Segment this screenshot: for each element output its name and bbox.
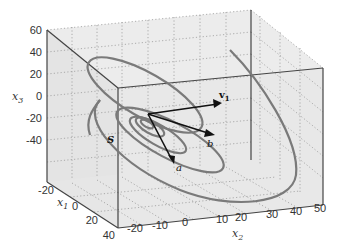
svg-text:40: 40 [30, 46, 42, 58]
label-S: S [107, 134, 114, 145]
svg-text:20: 20 [30, 68, 42, 80]
svg-text:60: 60 [30, 24, 42, 36]
svg-text:-20: -20 [127, 222, 143, 234]
svg-text:0: 0 [182, 216, 188, 228]
svg-text:0: 0 [72, 200, 78, 212]
label-b: b [207, 138, 213, 149]
x1-axis-label: x1 [57, 196, 68, 211]
svg-text:-20: -20 [38, 184, 54, 196]
svg-text:20: 20 [235, 211, 247, 223]
svg-text:20: 20 [86, 214, 98, 226]
svg-text:50: 50 [314, 202, 326, 214]
x3-axis-label: x3 [12, 90, 23, 105]
svg-text:30: 30 [266, 208, 278, 220]
svg-text:-40: -40 [26, 134, 42, 146]
svg-text:10: 10 [216, 213, 228, 225]
svg-text:0: 0 [36, 90, 42, 102]
3d-plot: v1 b a S 60 40 20 0 -20 -40 x3 -20 0 20 … [0, 0, 344, 245]
svg-text:-10: -10 [152, 219, 168, 231]
svg-text:40: 40 [290, 205, 302, 217]
label-a: a [176, 162, 182, 173]
svg-text:40: 40 [103, 229, 115, 241]
x2-axis-label: x2 [232, 227, 243, 242]
x3-axis-ticks: 60 40 20 0 -20 -40 [26, 24, 42, 146]
svg-text:-20: -20 [26, 112, 42, 124]
